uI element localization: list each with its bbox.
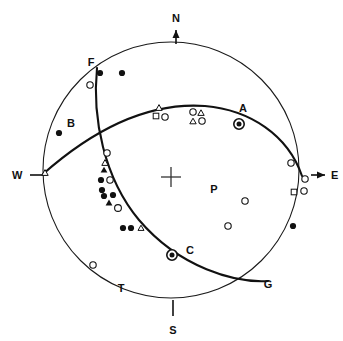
marker-filled-circle: [97, 70, 103, 76]
marker-open-square: [291, 189, 297, 195]
marker-bullseye-c-dot: [170, 253, 175, 258]
marker-filled-circle: [98, 177, 104, 183]
marker-open-triangle: [156, 105, 162, 111]
label-west: W: [12, 169, 23, 181]
marker-open-circle: [301, 188, 307, 194]
marker-filled-circle: [119, 70, 125, 76]
marker-open-circle: [242, 198, 248, 204]
label-b: B: [67, 117, 75, 129]
marker-open-circle: [87, 82, 93, 88]
label-t: T: [118, 282, 125, 294]
marker-open-circle: [104, 150, 110, 156]
label-f: F: [88, 56, 95, 68]
label-g: G: [264, 278, 273, 290]
marker-filled-circle: [101, 193, 107, 199]
label-c: C: [186, 244, 194, 256]
marker-open-circle: [190, 109, 196, 115]
center-cross-icon: [161, 167, 181, 187]
marker-bullseye-a-dot: [237, 122, 242, 127]
north-arrow-icon: [173, 30, 180, 38]
label-east: E: [331, 169, 338, 181]
marker-filled-triangle: [101, 167, 108, 173]
marker-open-circle: [107, 177, 113, 183]
marker-open-circle: [225, 223, 231, 229]
marker-open-triangle: [190, 118, 196, 124]
label-p: P: [210, 183, 217, 195]
marker-layer: [42, 70, 308, 268]
marker-open-circle: [288, 160, 294, 166]
east-arrow-icon: [317, 172, 325, 179]
label-south: S: [169, 324, 176, 336]
marker-open-circle: [162, 114, 168, 120]
stereonet-figure: N S E W A B C F G P T: [0, 0, 343, 341]
marker-open-square: [153, 113, 159, 119]
marker-open-circle: [302, 176, 308, 182]
marker-filled-circle: [99, 187, 105, 193]
stereonet-canvas: N S E W A B C F G P T: [0, 0, 343, 341]
marker-filled-circle: [128, 225, 134, 231]
label-a: A: [239, 102, 247, 114]
label-north: N: [172, 12, 180, 24]
marker-open-triangle: [198, 110, 204, 116]
marker-filled-circle: [290, 223, 296, 229]
marker-filled-circle: [56, 130, 62, 136]
marker-filled-circle: [120, 225, 126, 231]
great-circle-fg: [96, 68, 268, 281]
great-circle-ac: [43, 106, 302, 176]
marker-filled-circle: [110, 192, 116, 198]
marker-open-circle: [199, 118, 205, 124]
marker-open-circle: [90, 262, 96, 268]
marker-filled-triangle: [106, 200, 113, 206]
marker-open-circle: [115, 205, 122, 212]
